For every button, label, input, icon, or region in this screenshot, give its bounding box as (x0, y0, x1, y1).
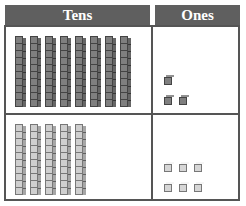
one-cube (164, 77, 172, 85)
ten-rod (30, 36, 38, 107)
one-cube (194, 184, 202, 192)
one-cube (179, 184, 187, 192)
ten-rod (75, 36, 83, 107)
ten-rod (15, 36, 23, 107)
one-cube (194, 164, 202, 172)
ten-rod (15, 124, 23, 195)
one-cube (164, 184, 172, 192)
ones-header: Ones (155, 5, 240, 25)
tens-header: Tens (5, 5, 150, 25)
row-divider (4, 113, 240, 115)
one-cube (164, 97, 172, 105)
one-cube (164, 164, 172, 172)
one-cube (179, 164, 187, 172)
ten-rod (60, 124, 68, 195)
ten-rod (45, 36, 53, 107)
ten-rod (120, 36, 128, 107)
ten-rod (105, 36, 113, 107)
one-cube (179, 97, 187, 105)
ten-rod (45, 124, 53, 195)
ten-rod (75, 124, 83, 195)
ten-rod (60, 36, 68, 107)
ten-rod (30, 124, 38, 195)
ten-rod (90, 36, 98, 107)
